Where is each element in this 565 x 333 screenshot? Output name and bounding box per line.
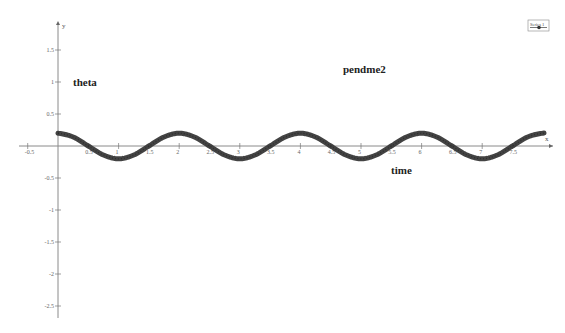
y-tick-label: -2 xyxy=(49,271,54,277)
x-tick-label: -0.5 xyxy=(25,149,35,155)
x-axis-arrow-icon xyxy=(549,144,553,148)
x-tick-label: 6 xyxy=(419,149,422,155)
legend-series-label: Series 1 xyxy=(530,22,544,27)
legend[interactable]: Series 1 xyxy=(528,20,549,31)
axes: -0.50.511.522.533.544.555.566.577.51.510… xyxy=(19,21,553,318)
y-tick-label: -2.5 xyxy=(45,303,55,309)
x-tick-label: 5 xyxy=(358,149,361,155)
chart: -0.50.511.522.533.544.555.566.577.51.510… xyxy=(0,0,565,333)
x-axis-symbol: x xyxy=(545,135,549,143)
xlabel-annotation: time xyxy=(391,164,412,176)
y-tick-label: -0.5 xyxy=(45,175,55,181)
y-tick-label: 1 xyxy=(51,79,54,85)
y-tick-label: 1.5 xyxy=(47,47,55,53)
y-tick-label: 0.5 xyxy=(47,111,55,117)
ylabel-annotation: theta xyxy=(73,76,97,88)
y-axis-symbol: y xyxy=(62,22,66,30)
chart-title-annotation: pendme2 xyxy=(343,63,386,75)
x-tick-label: 4 xyxy=(297,149,300,155)
y-tick-label: -1.5 xyxy=(45,239,55,245)
x-tick-label: 1 xyxy=(116,149,119,155)
x-tick-label: 2 xyxy=(176,149,179,155)
y-axis-arrow-icon xyxy=(56,21,60,25)
x-tick-label: 7 xyxy=(479,149,482,155)
y-tick-label: -1 xyxy=(49,207,54,213)
x-tick-label: 3 xyxy=(237,149,240,155)
